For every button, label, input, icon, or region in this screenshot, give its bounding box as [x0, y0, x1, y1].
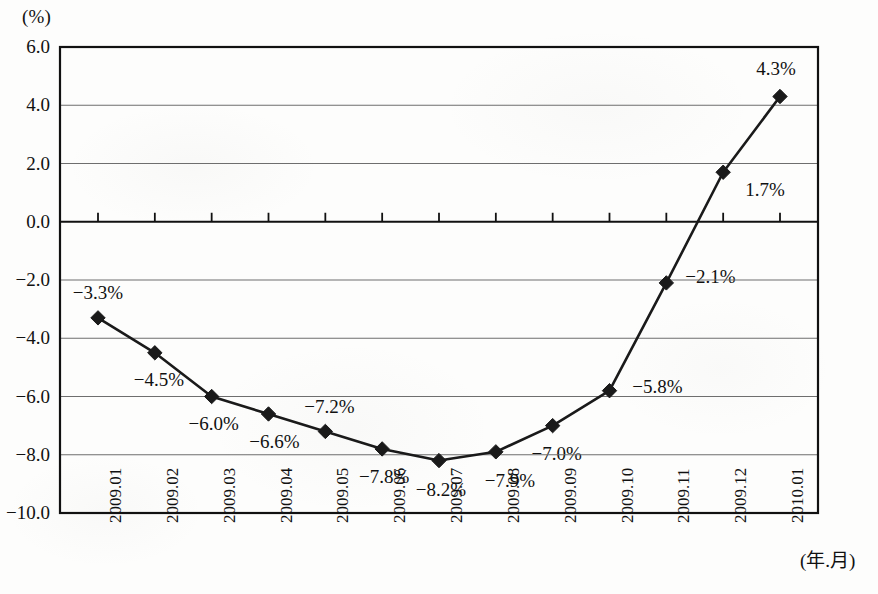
series-marker	[261, 407, 275, 421]
series-marker	[602, 383, 616, 397]
gridlines	[60, 105, 818, 455]
series-marker	[489, 445, 503, 459]
chart-figure: (%) (年.月) 6.04.02.00.0−2.0−4.0−6.0−8.0−1…	[0, 0, 878, 594]
plot-area	[0, 0, 878, 594]
x-axis-tick-marks	[98, 213, 780, 222]
series-marker	[545, 418, 559, 432]
series-marker	[432, 453, 446, 467]
series-line	[98, 97, 780, 461]
series-marker	[659, 276, 673, 290]
series-markers	[91, 89, 787, 467]
series-marker	[318, 424, 332, 438]
series-marker	[375, 442, 389, 456]
series-marker	[91, 311, 105, 325]
